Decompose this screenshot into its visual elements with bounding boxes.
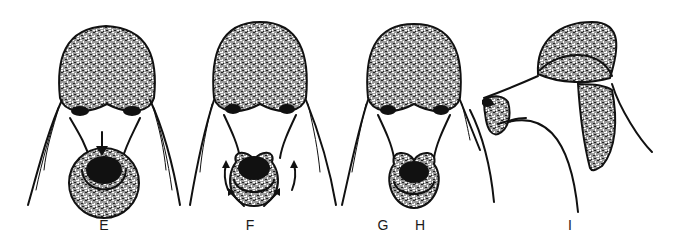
throat bbox=[508, 120, 578, 212]
eye-right bbox=[433, 105, 449, 115]
panel-label-e: E bbox=[99, 217, 108, 233]
topknot bbox=[59, 26, 155, 111]
topknot bbox=[538, 22, 616, 82]
eye-left bbox=[225, 104, 241, 114]
topknot bbox=[213, 22, 307, 111]
nose bbox=[86, 156, 122, 184]
eye-right bbox=[279, 104, 295, 114]
panel-label-g: G bbox=[378, 217, 389, 233]
panel-label-f: F bbox=[246, 217, 255, 233]
eye-left bbox=[71, 106, 89, 116]
muzzle-top bbox=[484, 76, 538, 98]
topknot bbox=[367, 24, 461, 111]
neck-back bbox=[612, 84, 652, 152]
nose bbox=[399, 161, 429, 183]
panel-f bbox=[190, 22, 336, 206]
eye-right bbox=[123, 106, 141, 116]
panel-e bbox=[28, 26, 180, 218]
eye-left bbox=[380, 105, 396, 115]
panel-g-h bbox=[342, 24, 480, 208]
panel-label-i: I bbox=[568, 217, 572, 233]
nose bbox=[238, 156, 270, 180]
panel-i bbox=[470, 22, 652, 212]
poodle-grooming-illustration bbox=[0, 0, 682, 246]
ear bbox=[578, 84, 615, 170]
panel-label-h: H bbox=[415, 217, 425, 233]
